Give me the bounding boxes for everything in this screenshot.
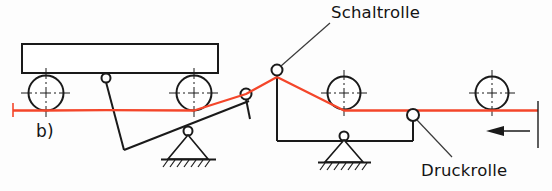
left-connecting-rod bbox=[106, 82, 124, 150]
mechanical-diagram: Schaltrolle Druckrolle b) bbox=[0, 0, 552, 191]
left-support-triangle bbox=[168, 135, 208, 159]
right-support-triangle bbox=[325, 140, 363, 162]
right-ground-hatching bbox=[320, 163, 367, 170]
label-druckrolle: Druckrolle bbox=[421, 161, 507, 180]
direction-arrow bbox=[486, 126, 530, 136]
cart-body-rect bbox=[22, 44, 218, 73]
left-pin-joint bbox=[102, 74, 111, 83]
material-path bbox=[13, 77, 538, 111]
guide-wheel-middle bbox=[321, 70, 367, 116]
left-ground-hatching bbox=[163, 160, 210, 167]
material-web-line bbox=[13, 77, 538, 117]
schaltrolle-roller bbox=[272, 65, 283, 76]
leader-line-druckrolle bbox=[417, 120, 452, 157]
guide-wheel-right bbox=[469, 70, 515, 116]
cart-assembly bbox=[21, 44, 219, 118]
label-schaltrolle: Schaltrolle bbox=[331, 3, 420, 22]
leader-line-schaltrolle bbox=[281, 23, 330, 66]
druckrolle-roller bbox=[407, 109, 419, 121]
figure-part-label: b) bbox=[36, 121, 54, 141]
